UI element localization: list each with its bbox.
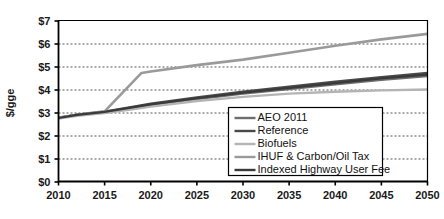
legend-label-1: Reference xyxy=(258,124,309,136)
y-axis-ticks: $0$1$2$3$4$5$6$7 xyxy=(38,15,58,188)
y-tick-label: $4 xyxy=(38,84,51,96)
line-chart: $0$1$2$3$4$5$6$7 20102015202020252030203… xyxy=(0,0,444,219)
x-tick-label: 2025 xyxy=(185,189,209,201)
series-line-3 xyxy=(59,34,428,118)
x-tick-label: 2030 xyxy=(231,189,255,201)
x-tick-label: 2010 xyxy=(46,189,70,201)
y-tick-label: $5 xyxy=(38,61,50,73)
x-tick-label: 2020 xyxy=(139,189,163,201)
chart-legend: AEO 2011ReferenceBiofuelsIHUF & Carbon/O… xyxy=(229,108,391,176)
y-tick-label: $0 xyxy=(38,176,50,188)
legend-label-4: Indexed Highway User Fee xyxy=(258,163,391,175)
x-tick-label: 2035 xyxy=(277,189,301,201)
y-tick-label: $6 xyxy=(38,38,50,50)
chart-container: $0$1$2$3$4$5$6$7 20102015202020252030203… xyxy=(0,0,444,219)
x-tick-label: 2015 xyxy=(92,189,116,201)
y-tick-label: $2 xyxy=(38,130,50,142)
data-series-group xyxy=(59,34,428,119)
x-tick-label: 2040 xyxy=(323,189,347,201)
y-tick-label: $7 xyxy=(38,15,50,27)
legend-label-3: IHUF & Carbon/Oil Tax xyxy=(258,150,370,162)
x-tick-label: 2050 xyxy=(415,189,439,201)
x-tick-label: 2045 xyxy=(369,189,393,201)
y-tick-label: $3 xyxy=(38,107,50,119)
legend-label-2: Biofuels xyxy=(258,137,298,149)
x-axis-ticks: 201020152020202520302035204020452050 xyxy=(46,182,439,201)
legend-label-0: AEO 2011 xyxy=(258,111,308,123)
y-tick-label: $1 xyxy=(38,153,50,165)
y-axis-title: $/gge xyxy=(4,89,16,118)
